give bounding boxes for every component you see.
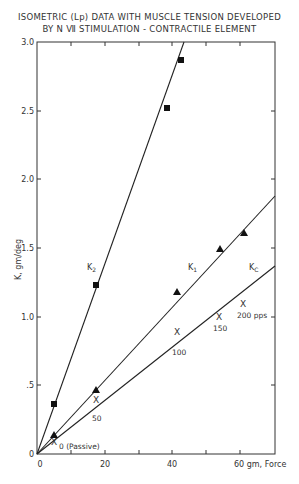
y-tick-3.0: 3.0 [21,38,34,47]
x-tick-0: 0 [37,460,42,469]
annotation-100: 100 [172,348,187,357]
k1-line [37,196,275,454]
axes [37,42,275,454]
svg-text:X: X [93,395,99,405]
annotation-150: 150 [213,324,228,333]
y-tick-2.0: 2.0 [21,175,34,184]
k1-label: K1 [188,263,197,273]
svg-text:X: X [51,437,57,447]
annotation-passive: 0 (Passive) [59,442,100,451]
y-tick-0: 0 [29,450,34,459]
series-k2-markers [51,57,184,407]
svg-text:X: X [174,327,180,337]
kc-line [37,266,275,454]
annotation-50: 50 [92,414,102,423]
y-ticks [37,111,275,385]
kc-label: KC [249,263,258,273]
y-tick-2.5: 2.5 [21,107,34,116]
x-tick-40: 40 [167,460,177,469]
svg-text:X: X [240,299,246,309]
y-axis-label: K, gm/deg [14,239,23,280]
k2-label: K2 [87,263,96,273]
series-kc-markers: X X X X X [51,299,246,447]
x-tick-20: 20 [100,460,110,469]
annotation-200pps: 200 pps [237,311,267,320]
y-tick-1.5: 1.5 [21,244,34,253]
y-tick-0.5: .5 [26,381,34,390]
y-tick-1.0: 1.0 [21,313,34,322]
x-axis-label: 60 gm, Force [234,460,286,469]
fit-lines [37,42,275,454]
chart-plot: 0 20 40 60 gm, Force 0 .5 1.0 1.5 2.0 2.… [0,0,299,484]
svg-text:X: X [216,312,222,322]
k2-line [37,42,184,454]
